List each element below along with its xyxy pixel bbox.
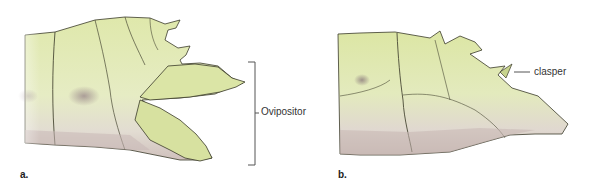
ovipositor-bracket [0,0,300,186]
panel-b-letter: b. [338,169,347,180]
panel-a-female-abdomen: Ovipositor a. [0,0,300,186]
panel-b-male-abdomen: clasper b. [300,0,589,186]
male-abdomen-illustration [300,0,589,186]
clasper-label: clasper [534,66,566,77]
panel-a-letter: a. [20,169,28,180]
